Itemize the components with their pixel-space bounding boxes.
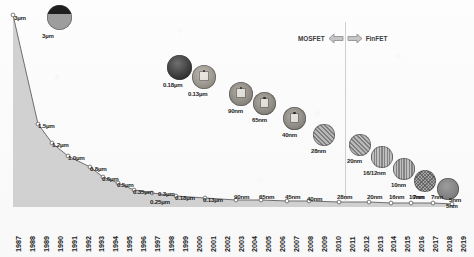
arrow-left-icon bbox=[328, 33, 344, 44]
wafer-28nm bbox=[313, 124, 335, 146]
arrow-right-icon bbox=[347, 33, 363, 44]
node-label-45nm: 45nm bbox=[285, 193, 300, 200]
node-label-10nm: 10nm bbox=[409, 193, 424, 200]
year-label-1990: 1990 bbox=[56, 236, 65, 252]
node-label-28nm: 28nm bbox=[337, 193, 352, 200]
year-label-2001: 2001 bbox=[209, 236, 218, 252]
year-label-2005: 2005 bbox=[264, 236, 273, 252]
node-label-5nm: 5nm bbox=[449, 196, 461, 203]
wafer-28nm-caption: 28nm bbox=[311, 148, 326, 154]
node-label-05m: 0.5µm bbox=[117, 181, 134, 188]
node-label-08m: 0.8µm bbox=[90, 165, 107, 172]
node-label-16nm: 16nm bbox=[389, 193, 404, 200]
node-label-65nm: 65nm bbox=[259, 193, 274, 200]
year-label-2002: 2002 bbox=[223, 236, 232, 252]
year-label-1991: 1991 bbox=[70, 236, 79, 252]
year-label-1988: 1988 bbox=[28, 236, 37, 252]
die-dot bbox=[263, 97, 266, 100]
year-label-2016: 2016 bbox=[417, 236, 426, 252]
year-label-2018: 2018 bbox=[445, 236, 454, 252]
wafer-40nm bbox=[283, 107, 306, 130]
node-label-018m: 0.18µm bbox=[175, 194, 195, 201]
wafer-90nm-caption: 90nm bbox=[228, 108, 243, 114]
wafer-65nm-caption: 65nm bbox=[252, 117, 267, 123]
wafer-10nm bbox=[393, 158, 415, 180]
node-label-7nm: 7nm bbox=[431, 193, 443, 200]
node-label-013m: 0.13µm bbox=[203, 196, 223, 203]
die-detail bbox=[200, 72, 208, 80]
node-label-40nm: 40nm bbox=[307, 195, 322, 202]
node-label-10m: 1.0µm bbox=[68, 154, 85, 161]
year-label-1999: 1999 bbox=[181, 236, 190, 252]
year-label-2019: 2019 bbox=[459, 236, 468, 252]
year-label-1989: 1989 bbox=[42, 236, 51, 252]
year-label-2013: 2013 bbox=[376, 236, 385, 252]
wafer-013um-caption: 0.13µm bbox=[188, 91, 207, 97]
finfet-label: FinFET bbox=[366, 35, 388, 42]
wafer-3um-caption: 3µm bbox=[42, 33, 54, 39]
wafer-018um-caption: 0.18µm bbox=[163, 82, 182, 88]
node-label-035m: 0.35µm bbox=[133, 188, 153, 195]
wafer-3um bbox=[47, 5, 72, 30]
die-dot bbox=[293, 112, 296, 115]
year-label-2011: 2011 bbox=[348, 236, 357, 252]
node-label-12m: 1.2µm bbox=[52, 141, 69, 148]
year-label-1992: 1992 bbox=[84, 236, 93, 252]
year-label-2008: 2008 bbox=[306, 236, 315, 252]
node-label-90nm: 90nm bbox=[234, 193, 249, 200]
year-label-1997: 1997 bbox=[153, 236, 162, 252]
year-label-1987: 1987 bbox=[14, 236, 23, 252]
mosfet-label: MOSFET bbox=[298, 35, 325, 42]
year-label-2012: 2012 bbox=[362, 236, 371, 252]
year-label-1993: 1993 bbox=[97, 236, 106, 252]
node-label-025m: 0.25µm bbox=[150, 198, 170, 205]
year-label-2017: 2017 bbox=[431, 236, 440, 252]
era-divider bbox=[345, 22, 346, 202]
wafer-1612nm-caption: 16/12nm bbox=[363, 170, 386, 176]
node-label-03m: 0.3µm bbox=[158, 190, 175, 197]
year-label-2004: 2004 bbox=[250, 236, 259, 252]
wafer-65nm bbox=[253, 92, 276, 115]
year-label-2003: 2003 bbox=[237, 236, 246, 252]
wafer-10nm-caption: 10nm bbox=[391, 182, 406, 188]
wafer-7nm bbox=[414, 170, 436, 192]
year-label-1998: 1998 bbox=[167, 236, 176, 252]
wafer-40nm-caption: 40nm bbox=[282, 132, 297, 138]
year-label-1996: 1996 bbox=[139, 236, 148, 252]
year-label-2009: 2009 bbox=[320, 236, 329, 252]
x-axis-year-labels: 1987198819891990199119921993199419951996… bbox=[0, 208, 474, 257]
die-detail bbox=[237, 89, 245, 97]
wafer-90nm bbox=[229, 82, 253, 106]
node-label-15m: 1.5µm bbox=[38, 122, 55, 129]
die-detail bbox=[261, 99, 269, 107]
wafer-018um bbox=[167, 55, 192, 80]
year-label-2014: 2014 bbox=[389, 236, 398, 252]
die-detail bbox=[291, 114, 299, 122]
wafer-20nm-caption: 20nm bbox=[347, 158, 362, 164]
wafer-013um bbox=[192, 65, 216, 89]
year-label-2010: 2010 bbox=[334, 236, 343, 252]
node-label-3m: 3µm bbox=[14, 14, 26, 21]
year-label-2015: 2015 bbox=[403, 236, 412, 252]
year-label-2000: 2000 bbox=[195, 236, 204, 252]
year-label-1995: 1995 bbox=[125, 236, 134, 252]
chart-canvas: MOSFET FinFET 3µm0.18µm0.13µm90nm65nm40n… bbox=[0, 0, 474, 257]
wafer-20nm bbox=[349, 134, 371, 156]
wafer-1612nm bbox=[371, 146, 393, 168]
node-label-20nm: 20nm bbox=[367, 193, 382, 200]
year-label-2007: 2007 bbox=[292, 236, 301, 252]
era-banner: MOSFET FinFET bbox=[298, 33, 387, 44]
year-label-1994: 1994 bbox=[111, 236, 120, 252]
year-label-2006: 2006 bbox=[278, 236, 287, 252]
